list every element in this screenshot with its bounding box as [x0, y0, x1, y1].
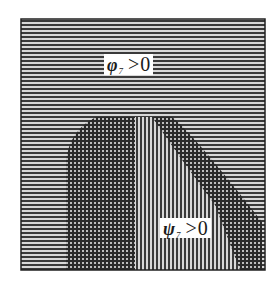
psi-symbol: ψ	[163, 219, 175, 239]
psi-value: 0	[198, 218, 208, 238]
phi-value: 0	[140, 54, 150, 74]
phi-subscript: 7	[119, 61, 124, 81]
phi-symbol: φ	[107, 55, 118, 75]
psi-subscript: 7	[176, 225, 181, 245]
phi-label: φ7>0	[104, 54, 153, 75]
region-diagram	[0, 0, 279, 286]
psi-label: ψ7>0	[160, 218, 211, 238]
phi-relation: >	[128, 54, 139, 74]
psi-relation: >	[186, 218, 197, 238]
